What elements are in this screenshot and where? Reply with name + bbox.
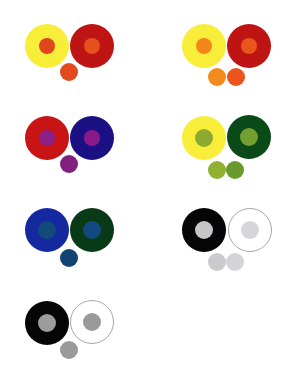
right-inner-circle [83, 313, 101, 331]
swatch-circle-1 [60, 341, 78, 359]
left-inner-circle [38, 314, 56, 332]
color-group-7 [0, 0, 295, 369]
